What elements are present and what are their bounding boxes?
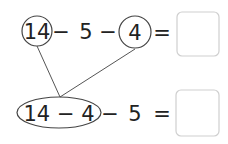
number-5-row2: 5 <box>128 102 141 126</box>
grouped-expression: 14 − 4 <box>23 102 94 126</box>
equals-sign-1: = <box>153 21 171 45</box>
number-4: 4 <box>128 21 141 45</box>
number-14: 14 <box>24 20 51 44</box>
minus-sign-2: − <box>99 20 117 44</box>
answer-box-1[interactable] <box>177 12 219 56</box>
minus-sign-3: − <box>101 102 119 126</box>
connector-line-14 <box>37 46 60 97</box>
number-5: 5 <box>79 20 92 44</box>
connector-line-4 <box>60 49 135 97</box>
answer-box-2[interactable] <box>176 90 219 136</box>
subtraction-grouping-diagram: 14 − 5 − 4 = 14 − 4 − 5 = <box>0 0 228 144</box>
equals-sign-2: = <box>153 102 171 126</box>
minus-sign-1: − <box>52 20 70 44</box>
